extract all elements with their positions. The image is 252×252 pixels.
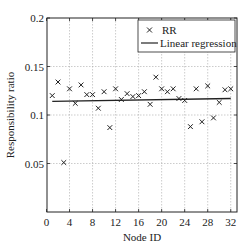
data-point-x-icon [142, 89, 147, 94]
x-tick-label: 12 [110, 216, 121, 228]
data-point-x-icon [107, 125, 112, 130]
data-point-x-icon [102, 89, 107, 94]
data-point-x-icon [211, 116, 216, 121]
x-tick-label: 0 [44, 216, 50, 228]
legend-label-rr: RR [162, 24, 177, 36]
data-point-x-icon [165, 89, 170, 94]
data-point-x-icon [148, 102, 153, 107]
data-point-x-icon [177, 96, 182, 101]
y-tick-label: 0.1 [30, 109, 44, 121]
y-tick-label: 0.15 [25, 61, 45, 73]
data-point-x-icon [79, 83, 84, 88]
x-tick-label: 28 [202, 216, 214, 228]
x-tick-label: 16 [133, 216, 145, 228]
x-tick-label: 24 [179, 216, 191, 228]
data-point-x-icon [171, 86, 176, 91]
data-point-x-icon [217, 100, 222, 105]
y-tick-label: 0.2 [30, 12, 44, 24]
x-tick-label: 20 [156, 216, 168, 228]
chart-svg: 0.050.10.150.2 048121620242832 RR Linear… [0, 0, 252, 252]
regression-line [52, 99, 230, 102]
legend-label-regression: Linear regression [160, 37, 237, 49]
data-point-x-icon [194, 86, 199, 91]
y-tick-label: 0.05 [25, 158, 45, 170]
data-point-x-icon [223, 87, 228, 92]
x-tick-label: 4 [67, 216, 73, 228]
x-tick-label: 8 [90, 216, 96, 228]
y-axis-label: Responsibility ratio [4, 71, 16, 158]
x-axis-label: Node ID [123, 231, 161, 243]
data-point-x-icon [125, 91, 130, 96]
data-point-x-icon [200, 119, 205, 124]
data-point-x-icon [130, 94, 135, 99]
data-point-x-icon [84, 92, 89, 97]
data-point-x-icon [56, 80, 61, 85]
data-point-x-icon [61, 160, 66, 165]
data-point-x-icon [153, 75, 158, 80]
data-point-x-icon [50, 93, 55, 98]
data-point-x-icon [96, 106, 101, 111]
legend: RR Linear regression [138, 20, 237, 52]
rr-series [50, 75, 233, 165]
x-tick-label: 32 [225, 216, 236, 228]
data-point-x-icon [188, 124, 193, 129]
data-point-x-icon [119, 97, 124, 102]
